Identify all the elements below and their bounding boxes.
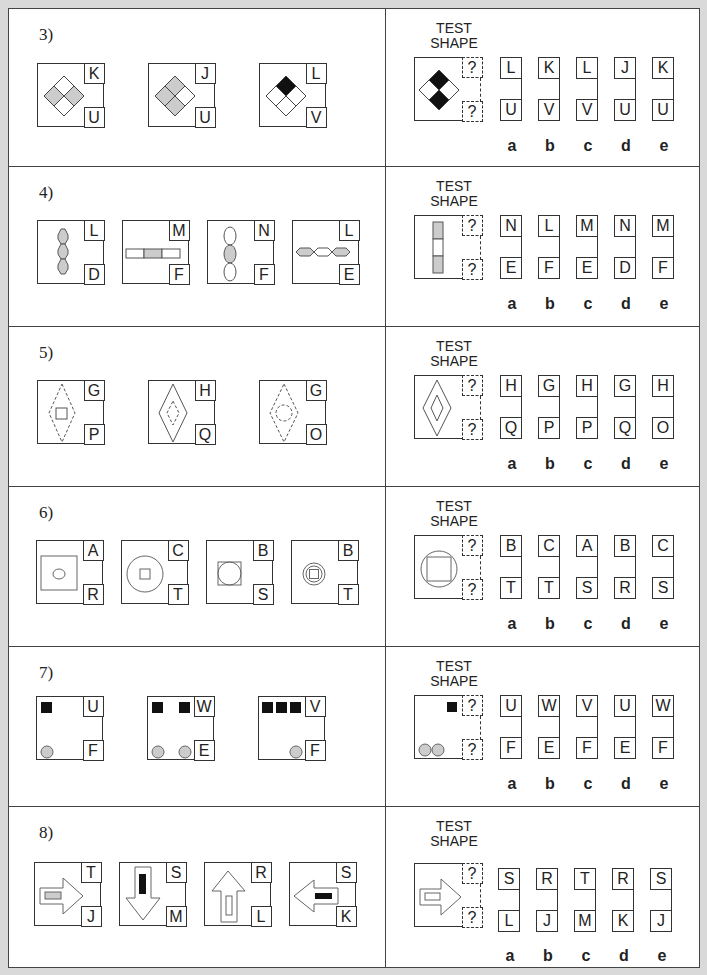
- bottom-letter: F: [83, 740, 104, 761]
- test-shape-label: TEST SHAPE: [424, 819, 484, 849]
- test-shape-label: TEST SHAPE: [424, 21, 484, 51]
- bottom-letter: D: [84, 264, 105, 285]
- option-b[interactable]: LF: [538, 215, 562, 279]
- bottom-letter: F: [305, 740, 326, 761]
- option-d[interactable]: UE: [614, 695, 638, 759]
- option-top: H: [500, 375, 522, 397]
- option-d[interactable]: JU: [614, 57, 638, 121]
- example-tile: G P: [37, 380, 104, 444]
- option-c[interactable]: HP: [576, 375, 600, 439]
- top-letter: T: [81, 862, 102, 883]
- answer-section: TEST SHAPE ? ? UF WE VF UE WF a b c d e: [386, 647, 699, 806]
- question-number: 7): [39, 663, 53, 683]
- example-tile: B S: [206, 540, 273, 604]
- option-e[interactable]: KU: [652, 57, 676, 121]
- question-3: 3) K U J: [9, 9, 699, 167]
- option-c[interactable]: ME: [576, 215, 600, 279]
- example-tile: B T: [291, 540, 358, 604]
- option-label: a: [500, 455, 524, 473]
- option-b[interactable]: WE: [538, 695, 562, 759]
- example-tile: S M: [119, 862, 186, 926]
- bottom-letter: T: [168, 584, 189, 605]
- option-b[interactable]: CT: [538, 535, 562, 599]
- example-tile: V F: [258, 696, 325, 760]
- example-tile: U F: [36, 696, 103, 760]
- option-top: K: [652, 57, 674, 79]
- option-b[interactable]: KV: [538, 57, 562, 121]
- option-bottom: J: [650, 910, 672, 932]
- unknown-bottom: ?: [462, 259, 483, 280]
- bottom-letter: U: [84, 107, 105, 128]
- option-label: d: [614, 615, 638, 633]
- option-label: e: [652, 775, 676, 793]
- bottom-letter: P: [84, 424, 105, 445]
- option-bottom: P: [538, 417, 560, 439]
- example-tile: G O: [259, 380, 326, 444]
- top-letter: G: [84, 380, 105, 401]
- option-c[interactable]: LV: [576, 57, 600, 121]
- option-e[interactable]: SJ: [650, 868, 674, 932]
- dashed-connector: [480, 884, 481, 908]
- option-e[interactable]: WF: [652, 695, 676, 759]
- option-bottom: U: [614, 99, 636, 121]
- top-letter: V: [305, 696, 326, 717]
- option-c[interactable]: TM: [574, 868, 598, 932]
- option-d[interactable]: ND: [614, 215, 638, 279]
- unknown-bottom: ?: [462, 101, 483, 122]
- option-bottom: M: [574, 910, 596, 932]
- test-shape-label: TEST SHAPE: [424, 339, 484, 369]
- top-letter: S: [336, 862, 357, 883]
- option-a[interactable]: NE: [500, 215, 524, 279]
- top-letter: B: [253, 540, 274, 561]
- option-top: L: [538, 215, 560, 237]
- dashed-connector: [480, 556, 481, 580]
- unknown-top: ?: [462, 535, 483, 556]
- option-label: d: [614, 455, 638, 473]
- option-a[interactable]: SL: [498, 868, 522, 932]
- option-a[interactable]: LU: [500, 57, 524, 121]
- option-a[interactable]: UF: [500, 695, 524, 759]
- option-d[interactable]: GQ: [614, 375, 638, 439]
- option-bottom: P: [576, 417, 598, 439]
- top-letter: R: [251, 862, 272, 883]
- option-c[interactable]: AS: [576, 535, 600, 599]
- option-bottom: L: [498, 910, 520, 932]
- option-label: e: [650, 947, 674, 965]
- option-bottom: Q: [500, 417, 522, 439]
- unknown-bottom: ?: [462, 739, 483, 760]
- option-label: a: [500, 615, 524, 633]
- top-letter: N: [254, 220, 275, 241]
- option-top: M: [576, 215, 598, 237]
- test-shape-label: TEST SHAPE: [424, 499, 484, 529]
- option-e[interactable]: MF: [652, 215, 676, 279]
- example-tile: K U: [37, 63, 104, 127]
- option-d[interactable]: RK: [612, 868, 636, 932]
- question-5: 5) G P H Q G O TEST SHAPE: [9, 327, 699, 487]
- puzzle-sheet: 3) K U J: [8, 8, 700, 968]
- option-e[interactable]: CS: [652, 535, 676, 599]
- option-e[interactable]: HO: [652, 375, 676, 439]
- question-number: 3): [39, 25, 53, 45]
- option-b[interactable]: GP: [538, 375, 562, 439]
- option-top: N: [500, 215, 522, 237]
- top-letter: A: [83, 540, 104, 561]
- option-a[interactable]: HQ: [500, 375, 524, 439]
- option-label: b: [538, 295, 562, 313]
- option-d[interactable]: BR: [614, 535, 638, 599]
- option-a[interactable]: BT: [500, 535, 524, 599]
- bottom-letter: V: [306, 107, 327, 128]
- option-label: e: [652, 295, 676, 313]
- option-bottom: U: [652, 99, 674, 121]
- option-top: W: [652, 695, 674, 717]
- option-label: d: [614, 137, 638, 155]
- top-letter: H: [195, 380, 216, 401]
- example-tile: L E: [292, 220, 359, 284]
- option-top: S: [498, 868, 520, 890]
- option-c[interactable]: VF: [576, 695, 600, 759]
- example-tile: L V: [259, 63, 326, 127]
- question-8: 8) T J S M R L: [9, 807, 699, 967]
- top-letter: L: [306, 63, 327, 84]
- option-label: e: [652, 615, 676, 633]
- option-b[interactable]: RJ: [536, 868, 560, 932]
- test-shape-tile: ? ?: [414, 57, 481, 121]
